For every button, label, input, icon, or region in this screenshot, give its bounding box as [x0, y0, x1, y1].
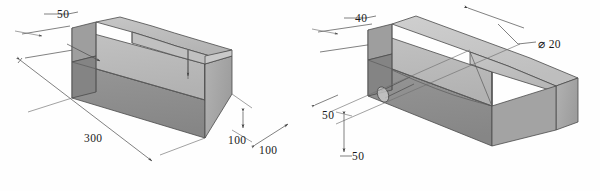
dim-right-height-50 — [336, 112, 352, 156]
dim-left-depth-100 — [255, 124, 288, 145]
dim-right-offset-50 — [315, 95, 338, 105]
dim-label-left-100-depth: 100 — [259, 144, 277, 156]
block-right-end-face — [556, 78, 578, 130]
dim-label-right-50-upper: 50 — [322, 109, 334, 121]
block-right-front-right — [492, 86, 556, 146]
block-left-end-lower — [72, 56, 96, 98]
block-left-right-end — [205, 56, 232, 138]
block-left-end-upper — [72, 22, 96, 62]
technical-drawing-canvas: 50 300 100 100 40 50 50 ⌀ 20 — [0, 0, 600, 191]
dim-label-left-50: 50 — [57, 8, 69, 20]
dim-label-right-40: 40 — [355, 12, 367, 24]
dim-label-left-100-height: 100 — [228, 134, 246, 146]
dim-label-right-50-lower: 50 — [352, 150, 364, 162]
dim-label-left-300: 300 — [84, 132, 102, 144]
dim-label-right-diameter-20: ⌀ 20 — [538, 38, 561, 50]
drawing-sheet: 50 300 100 100 40 50 50 ⌀ 20 — [0, 0, 600, 191]
isometric-block-left — [15, 12, 288, 161]
